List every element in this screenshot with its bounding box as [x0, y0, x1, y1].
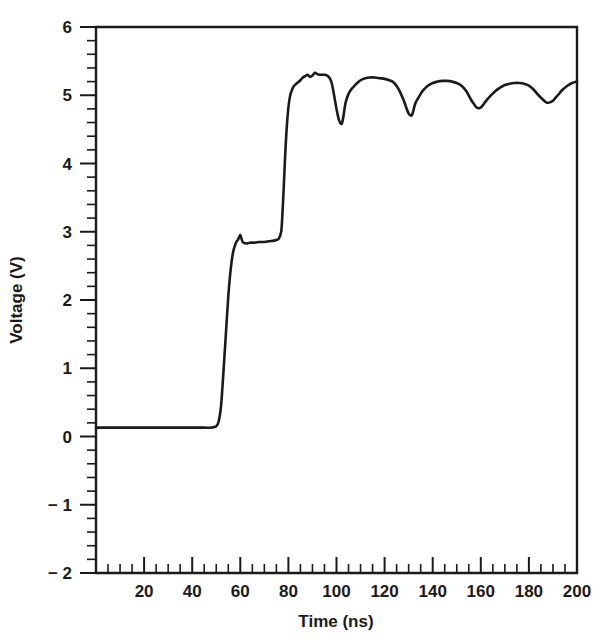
chart-container: − 2− 10123456 20406080100120140160180200…: [0, 0, 604, 643]
voltage-waveform-line: [96, 73, 577, 428]
y-tick-label: − 2: [48, 564, 72, 583]
y-tick-label: 4: [63, 155, 73, 174]
x-tick-label: 60: [231, 582, 250, 601]
x-tick-label: 160: [467, 582, 495, 601]
x-axis-title: Time (ns): [298, 612, 373, 631]
y-tick-label: − 1: [48, 496, 72, 515]
y-tick-label: 6: [63, 18, 72, 37]
y-axis-title: Voltage (V): [7, 256, 26, 344]
x-tick-label: 200: [563, 582, 591, 601]
y-axis-tick-labels: − 2− 10123456: [48, 18, 73, 583]
x-tick-label: 20: [135, 582, 154, 601]
x-tick-label: 40: [183, 582, 202, 601]
x-tick-label: 140: [419, 582, 447, 601]
y-tick-label: 5: [63, 86, 72, 105]
x-tick-label: 120: [370, 582, 398, 601]
voltage-time-plot: − 2− 10123456 20406080100120140160180200…: [0, 0, 604, 643]
y-tick-label: 3: [63, 223, 72, 242]
x-axis-tick-labels: 20406080100120140160180200: [135, 582, 592, 601]
y-tick-label: 1: [63, 359, 72, 378]
x-tick-label: 100: [322, 582, 350, 601]
y-tick-label: 0: [63, 428, 72, 447]
x-tick-label: 80: [279, 582, 298, 601]
y-tick-label: 2: [63, 291, 72, 310]
x-tick-label: 180: [515, 582, 543, 601]
